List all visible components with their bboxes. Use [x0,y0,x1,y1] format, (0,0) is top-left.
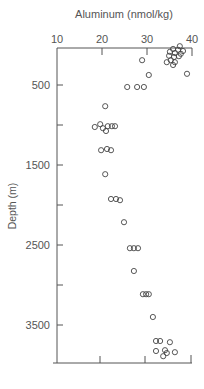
data-point-circle [167,340,172,345]
data-point-circle [172,350,177,355]
axis-ticks [57,48,147,363]
y-tick-labels: 500150025003500 [26,79,50,331]
y-tick-label: 500 [32,79,50,91]
data-point-circle [125,84,130,89]
data-point-circle [140,58,145,63]
data-point-circle [153,348,158,353]
data-point-circle [121,220,126,225]
data-point-circle [103,104,108,109]
y-axis-title: Depth (m) [6,183,18,230]
x-tick-label: 40 [186,33,198,45]
x-tick-label: 20 [96,33,108,45]
data-point-circle [99,148,104,153]
data-point-circle [112,124,117,129]
data-point-circle [161,354,166,359]
y-tick-label: 1500 [26,159,50,171]
data-point-circle [131,268,136,273]
data-point-circle [108,196,113,201]
x-tick-label: 30 [141,33,153,45]
data-point-circle [184,71,189,76]
data-point-circle [135,84,140,89]
x-axis-title: Aluminum (nmol/kg) [75,8,173,20]
data-point-circle [150,314,155,319]
plot-frame [53,48,192,363]
data-point-circle [103,172,108,177]
x-tick-labels: 10203040 [51,33,198,45]
data-points [92,44,189,359]
data-point-circle [146,72,151,77]
data-point-circle [100,126,105,131]
y-tick-label: 3500 [26,319,50,331]
depth-profile-chart: Aluminum (nmol/kg) 10203040 500150025003… [0,0,204,389]
x-tick-label: 10 [51,33,63,45]
y-tick-label: 2500 [26,239,50,251]
data-point-circle [141,84,146,89]
data-point-circle [92,124,97,129]
data-point-circle [103,128,108,133]
